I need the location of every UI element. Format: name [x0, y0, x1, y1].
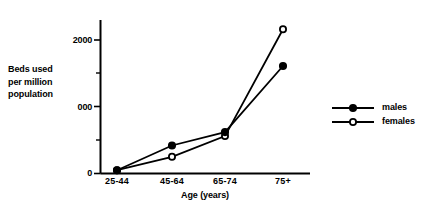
legend-marker-females-icon — [330, 115, 376, 129]
legend-label-females: females — [382, 116, 415, 126]
y-axis-title: Beds used per million population — [8, 63, 86, 101]
chart-figure: Beds used per million population 2000 00… — [0, 0, 425, 209]
series-line-females — [117, 29, 283, 170]
x-axis-title: Age (years) — [150, 190, 260, 200]
y-tick-label-2000: 2000 — [52, 35, 92, 45]
chart-legend: males females — [330, 101, 422, 129]
legend-label-males: males — [382, 102, 407, 112]
legend-item-males: males — [330, 101, 422, 115]
y-tick-label-0: 0 — [52, 168, 92, 178]
x-tick-label-75-plus: 75+ — [253, 176, 313, 186]
series-markers-females — [114, 26, 286, 173]
x-tick-label-65-74: 65-74 — [195, 176, 255, 186]
x-tick-label-25-44: 25-44 — [87, 176, 147, 186]
series-line-males — [117, 66, 283, 170]
x-tick-label-45-64: 45-64 — [142, 176, 202, 186]
y-tick-label-1000: 000 — [52, 102, 92, 112]
legend-item-females: females — [330, 115, 422, 129]
legend-marker-males-icon — [330, 101, 376, 115]
series-markers-males — [114, 63, 287, 174]
